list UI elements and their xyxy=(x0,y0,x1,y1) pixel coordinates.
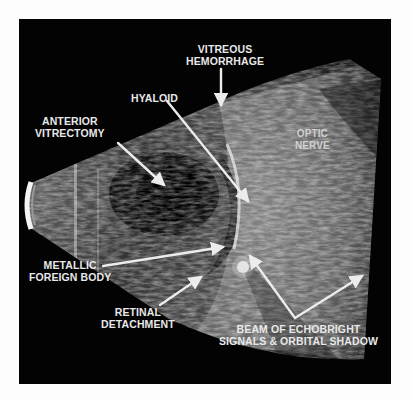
label-hyaloid: HYALOID xyxy=(131,92,178,104)
label-metallic-foreign-body: METALLIC FOREIGN BODY xyxy=(29,259,111,283)
arrow-hyaloid xyxy=(167,101,248,201)
label-retinal-detachment: RETINAL DETACHMENT xyxy=(101,306,175,330)
arrow-beam-right xyxy=(295,276,362,318)
arrow-retinal-detachment xyxy=(160,277,201,305)
arrow-metallic-foreign-body xyxy=(103,247,223,266)
label-optic-nerve: OPTIC NERVE xyxy=(295,128,330,152)
ultrasound-figure-panel: VITREOUS HEMORRHAGE HYALOID ANTERIOR VIT… xyxy=(19,19,391,384)
arrow-beam-left xyxy=(250,256,295,318)
arrow-anterior-vitrectomy xyxy=(118,143,164,185)
label-vitreous-hemorrhage: VITREOUS HEMORRHAGE xyxy=(186,43,264,67)
label-anterior-vitrectomy: ANTERIOR VITRECTOMY xyxy=(35,115,105,139)
label-beam-echobright: BEAM OF ECHOBRIGHT SIGNALS & ORBITAL SHA… xyxy=(219,323,378,347)
